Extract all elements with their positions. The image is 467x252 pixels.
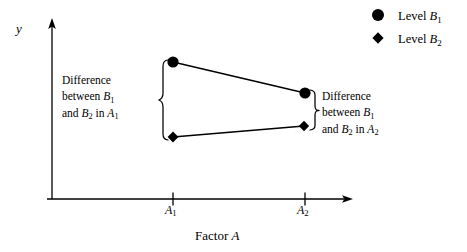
- annotation-right-line1: Difference: [322, 88, 379, 104]
- annotation-right-line3-mid: in: [353, 123, 368, 135]
- plot-canvas: [0, 0, 467, 252]
- annotation-difference-at-a1: Difference between B1 and B2 in A1: [62, 72, 119, 121]
- annotation-right-line3-sub1: 2: [349, 128, 353, 137]
- y-axis-label-text: y: [16, 21, 22, 36]
- legend-entry-b1-prefix: Level: [398, 9, 430, 23]
- annotation-right-line3: and B2 in A2: [322, 121, 379, 137]
- x-tick-label-a1-sub: 1: [172, 208, 176, 218]
- annotation-difference-at-a2: Difference between B1 and B2 in A2: [322, 88, 379, 137]
- y-axis-label: y: [16, 21, 22, 38]
- brace-difference-at-a1: [159, 60, 169, 140]
- series-line-level-b2: [173, 126, 304, 137]
- legend-entry-b2-sub: 2: [437, 38, 442, 48]
- annotation-left-line3-mid: in: [93, 107, 108, 119]
- annotation-right-line2-sub: 1: [370, 112, 374, 121]
- annotation-right-line2-prefix: between: [322, 106, 363, 118]
- x-axis-label-prefix: Factor: [195, 228, 231, 243]
- data-point-b2-a2: [299, 121, 309, 131]
- data-point-b2-a1: [168, 132, 179, 143]
- annotation-right-line3-prefix: and: [322, 123, 341, 135]
- annotation-left-line3-sub1: 2: [89, 112, 93, 121]
- legend-entry-level-b2: Level B2: [398, 31, 442, 47]
- x-axis: [47, 195, 353, 203]
- x-tick-label-a2: A2: [297, 203, 309, 218]
- x-axis-label: Factor A: [195, 228, 239, 245]
- data-point-b1-a2: [299, 87, 310, 98]
- legend-marker-circle-icon: [372, 9, 384, 21]
- annotation-left-line2: between B1: [62, 88, 119, 104]
- annotation-right-line3-var1: B: [341, 123, 348, 135]
- legend-entry-b2-prefix: Level: [398, 32, 430, 46]
- annotation-left-line1: Difference: [62, 72, 119, 88]
- x-tick-label-a2-sub: 2: [304, 208, 308, 218]
- legend-entry-level-b1: Level B1: [398, 8, 442, 24]
- legend-entry-b1-sub: 1: [437, 15, 442, 25]
- annotation-right-line2: between B1: [322, 104, 379, 120]
- annotation-right-line3-sub2: 2: [374, 128, 378, 137]
- annotation-left-line2-sub: 1: [110, 96, 114, 105]
- legend-marker-diamond-icon: [372, 32, 383, 44]
- brace-difference-at-a2: [310, 90, 320, 130]
- x-axis-label-variable: A: [231, 228, 239, 243]
- x-tick-label-a1: A1: [165, 203, 177, 218]
- annotation-left-line3-sub2: 1: [114, 112, 118, 121]
- annotation-left-line3: and B2 in A1: [62, 105, 119, 121]
- y-axis: [48, 18, 56, 199]
- annotation-left-line3-prefix: and: [62, 107, 81, 119]
- annotation-left-line2-prefix: between: [62, 90, 103, 102]
- annotation-left-line3-var1: B: [81, 107, 88, 119]
- series-line-level-b1: [173, 62, 305, 93]
- data-point-b1-a1: [167, 56, 178, 67]
- interaction-plot-figure: y Factor A A1 A2 Difference between B1 a…: [0, 0, 467, 252]
